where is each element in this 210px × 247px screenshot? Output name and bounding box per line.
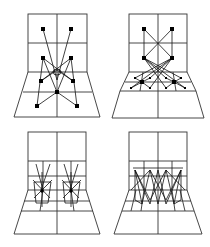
panel-top-left (14, 14, 100, 117)
room-frame (14, 132, 100, 234)
room-frame (114, 132, 202, 234)
diagram-canvas (0, 0, 210, 247)
panel-bottom-right (114, 132, 202, 234)
room-frame (14, 14, 100, 117)
panel-bottom-left (14, 132, 100, 234)
panel-top-right (112, 14, 204, 118)
